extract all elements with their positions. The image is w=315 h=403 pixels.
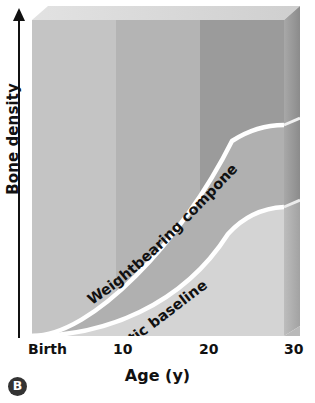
x-tick-birth: Birth <box>28 341 67 357</box>
x-tick-30: 30 <box>284 341 303 357</box>
band-birth-10 <box>32 20 116 336</box>
panel-label-b: B <box>8 377 27 396</box>
box-right-face-lower <box>284 200 300 336</box>
bone-density-figure: Bone density <box>0 0 315 403</box>
y-axis-label: Bone density <box>4 49 22 229</box>
chart-svg <box>32 6 300 336</box>
x-tick-20: 20 <box>199 341 218 357</box>
x-axis-title: Age (y) <box>0 366 315 385</box>
x-axis-ticks: Birth 10 20 30 <box>0 341 315 361</box>
box-right-face-upper <box>284 6 300 207</box>
x-tick-10: 10 <box>113 341 132 357</box>
plot-area <box>32 6 300 336</box>
box-top-face <box>32 6 300 20</box>
